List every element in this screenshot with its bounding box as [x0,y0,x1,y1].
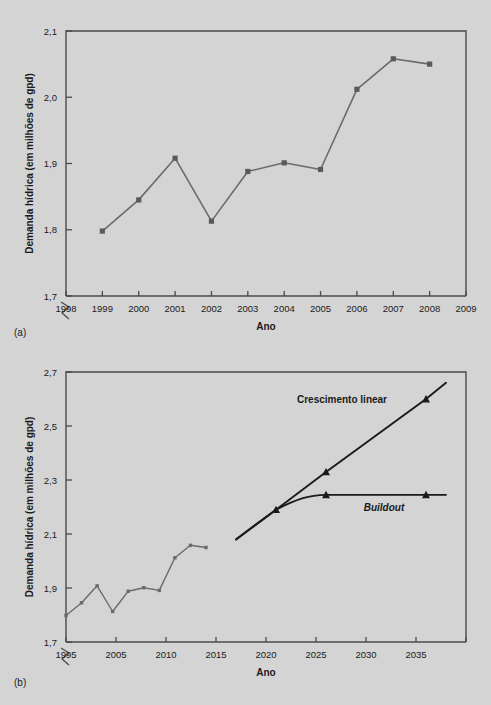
y-axis-title-a: Demanda hídrica (em milhões de gpd) [24,73,35,254]
data-point-marker-a [136,197,141,202]
x-tick-label-a: 2007 [383,303,404,314]
plot-frame-a [66,31,466,296]
data-point-marker-a [354,87,359,92]
x-tick-label-a: 2001 [165,303,186,314]
data-point-marker-a [100,228,105,233]
data-point-marker-historic-b [189,544,192,547]
chart-panel-b: 1,71,92,12,32,52,71995200520102015202020… [0,350,491,705]
data-point-marker-a [172,156,177,161]
y-tick-label-b: 2,7 [44,367,57,378]
data-point-marker-historic-b [204,546,207,549]
x-tick-label-b: 2025 [305,649,326,660]
annotation-crescimento-linear: Crescimento linear [297,394,387,405]
y-tick-label-a: 1,9 [44,158,57,169]
x-tick-label-b: 2005 [105,649,126,660]
series-line-historic-b [66,545,206,615]
data-point-marker-a [427,62,432,67]
x-tick-label-a: 2009 [455,303,476,314]
data-point-marker-historic-b [173,556,176,559]
series-line-buildout-b [236,495,446,540]
y-tick-label-b: 1,9 [44,583,57,594]
y-tick-label-a: 2,1 [44,26,57,37]
chart-panel-a: 1,71,81,92,02,11998199920002001200220032… [0,0,491,350]
x-tick-label-b: 1995 [55,649,76,660]
y-tick-label-b: 1,7 [44,637,57,648]
data-point-marker-a [318,167,323,172]
x-tick-label-b: 2030 [355,649,376,660]
x-tick-label-a: 2003 [237,303,258,314]
chart-a-svg: 1,71,81,92,02,11998199920002001200220032… [0,0,491,350]
y-tick-label-a: 1,8 [44,224,57,235]
data-point-marker-a [209,219,214,224]
y-tick-label-b: 2,5 [44,421,57,432]
x-axis-title-b: Ano [256,667,275,678]
data-point-marker-a [391,56,396,61]
y-axis-title-b: Demanda hídrica (em milhões de gpd) [24,417,35,598]
y-tick-label-b: 2,1 [44,529,57,540]
x-tick-label-a: 1998 [55,303,76,314]
x-tick-label-b: 2020 [255,649,276,660]
x-tick-label-b: 2010 [155,649,176,660]
x-tick-label-a: 1999 [92,303,113,314]
data-point-marker-historic-b [64,614,67,617]
chart-b-svg: 1,71,92,12,32,52,71995200520102015202020… [0,350,491,705]
y-tick-label-a: 1,7 [44,291,57,302]
data-point-marker-historic-b [111,610,114,613]
x-tick-label-b: 2015 [205,649,226,660]
x-tick-label-a: 2006 [346,303,367,314]
data-point-marker-historic-b [80,601,83,604]
x-tick-label-a: 2000 [128,303,149,314]
panel-b-tag: (b) [14,677,26,688]
data-point-marker-historic-b [158,589,161,592]
x-tick-label-a: 2008 [419,303,440,314]
data-point-marker-a [245,169,250,174]
annotation-buildout: Buildout [364,502,405,513]
data-point-marker-historic-b [127,590,130,593]
x-tick-label-a: 2005 [310,303,331,314]
x-tick-label-b: 2035 [405,649,426,660]
series-line-a [102,59,429,231]
data-point-marker-a [282,160,287,165]
x-tick-label-a: 2002 [201,303,222,314]
panel-a-tag: (a) [14,327,26,338]
x-axis-title-a: Ano [256,321,275,332]
y-tick-label-b: 2,3 [44,475,57,486]
data-point-marker-historic-b [142,586,145,589]
data-point-marker-historic-b [95,584,98,587]
x-tick-label-a: 2004 [274,303,295,314]
y-tick-label-a: 2,0 [44,92,57,103]
